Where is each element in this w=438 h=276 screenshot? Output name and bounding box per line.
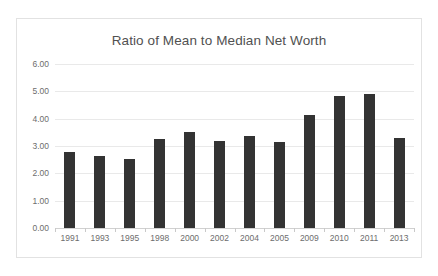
x-axis-tick-label: 1991 [55, 233, 85, 243]
x-axis-tick-mark [145, 228, 146, 232]
bar[interactable] [394, 138, 405, 228]
y-axis-tick-label: 6.00 [32, 59, 49, 69]
x-axis-tick-mark [235, 228, 236, 232]
bar-slot [354, 64, 384, 228]
plot-area: 6.005.004.003.002.001.000.00 [55, 64, 414, 228]
bar[interactable] [214, 141, 225, 228]
y-axis-tick-label: 1.00 [32, 196, 49, 206]
bar-slot [115, 64, 145, 228]
bar-slot [235, 64, 265, 228]
bar[interactable] [64, 152, 75, 228]
bar-series [55, 64, 414, 228]
y-axis-tick-label: 3.00 [32, 141, 49, 151]
y-axis-tick-label: 0.00 [32, 223, 49, 233]
x-axis-tick-mark [384, 228, 385, 232]
chart-title: Ratio of Mean to Median Net Worth [17, 33, 421, 48]
x-axis-tick-mark [205, 228, 206, 232]
x-axis-tick-label: 2002 [205, 233, 235, 243]
x-axis-tick-mark [115, 228, 116, 232]
bar-slot [205, 64, 235, 228]
x-axis-tick-mark [414, 228, 415, 232]
x-axis-tick-mark [324, 228, 325, 232]
x-axis-tick-label: 2010 [324, 233, 354, 243]
bar-slot [264, 64, 294, 228]
y-axis-tick-label: 4.00 [32, 114, 49, 124]
bar-slot [85, 64, 115, 228]
bar[interactable] [244, 136, 255, 228]
bar-slot [55, 64, 85, 228]
bar-slot [145, 64, 175, 228]
x-axis-tick-mark [175, 228, 176, 232]
x-axis-tick-label: 2011 [354, 233, 384, 243]
x-axis-tick-label: 1993 [85, 233, 115, 243]
bar-slot [384, 64, 414, 228]
x-axis-tick-mark [85, 228, 86, 232]
bar[interactable] [364, 94, 375, 228]
x-axis-tick-marks [55, 228, 414, 232]
bar-slot [324, 64, 354, 228]
chart-frame: Ratio of Mean to Median Net Worth 6.005.… [16, 18, 422, 258]
x-axis-tick-label: 1998 [145, 233, 175, 243]
x-axis-tick-mark [354, 228, 355, 232]
bar[interactable] [304, 115, 315, 228]
y-axis-tick-label: 2.00 [32, 168, 49, 178]
x-axis-tick-mark [264, 228, 265, 232]
x-axis-tick-label: 2000 [175, 233, 205, 243]
bar-slot [294, 64, 324, 228]
bar-slot [175, 64, 205, 228]
bar[interactable] [334, 96, 345, 228]
x-axis-tick-mark [294, 228, 295, 232]
x-axis-tick-label: 2005 [264, 233, 294, 243]
x-axis-tick-label: 2004 [235, 233, 265, 243]
x-axis-tick-label: 2009 [294, 233, 324, 243]
bar[interactable] [124, 159, 135, 228]
bar[interactable] [94, 156, 105, 228]
x-axis-tick-mark [55, 228, 56, 232]
y-axis-tick-label: 5.00 [32, 86, 49, 96]
x-axis-labels: 1991199319951998200020022004200520092010… [55, 233, 414, 243]
bar[interactable] [274, 142, 285, 228]
x-axis-tick-label: 2013 [384, 233, 414, 243]
x-axis-tick-label: 1995 [115, 233, 145, 243]
bar[interactable] [184, 132, 195, 228]
bar[interactable] [154, 139, 165, 228]
